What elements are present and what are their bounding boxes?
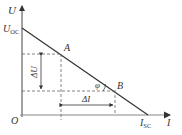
point-b-label: B [117, 80, 123, 91]
diagram-svg: U UOC A B φ ΔU ΔI O ISC I [0, 0, 182, 135]
uoc-label: UOC [3, 23, 19, 35]
delta-u-label: ΔU [29, 66, 39, 79]
ui-characteristic-diagram: U UOC A B φ ΔU ΔI O ISC I [0, 0, 182, 135]
y-axis-label: U [8, 4, 17, 16]
isc-label: ISC [139, 117, 151, 129]
angle-phi-label: φ [95, 80, 100, 90]
delta-i-label: ΔI [81, 94, 91, 104]
origin-label: O [11, 115, 18, 126]
point-a-label: A [63, 42, 71, 53]
x-axis-label: I [166, 117, 171, 128]
